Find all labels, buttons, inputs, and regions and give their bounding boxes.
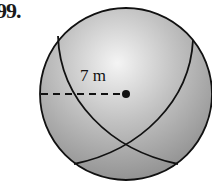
radius-label: 7 m <box>80 66 106 86</box>
center-point <box>122 90 130 98</box>
sphere-figure <box>0 0 212 184</box>
